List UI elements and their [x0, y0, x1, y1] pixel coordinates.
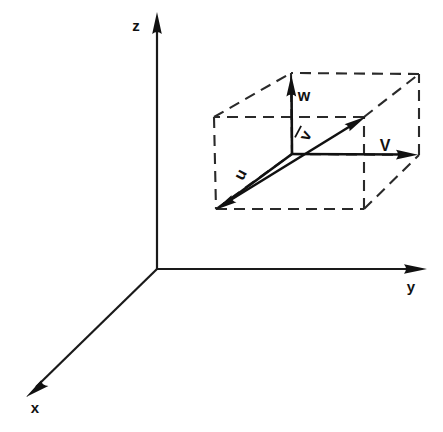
vector-decomposition-figure: z y x	[0, 0, 443, 432]
axes-group: z y x	[26, 12, 427, 416]
axis-x: x	[26, 269, 157, 416]
vectors-group: v u V w	[215, 75, 418, 210]
axis-z-label: z	[132, 17, 140, 34]
vector-u: u	[224, 154, 292, 204]
axis-y-label: y	[407, 278, 416, 295]
vector-w-line	[292, 88, 293, 154]
axis-x-line	[36, 269, 157, 387]
axis-y-arrowhead	[404, 264, 427, 274]
axis-z: z	[132, 12, 162, 269]
vector-v-line	[292, 154, 406, 155]
vector-u-line	[224, 154, 292, 204]
vector-w-label: w	[297, 87, 311, 104]
vector-resultant-line	[224, 122, 357, 204]
box-edge-depth-top-right	[364, 74, 419, 117]
axis-y: y	[157, 264, 427, 295]
box-edge-front-left	[214, 117, 216, 209]
vector-resultant-label-group: v	[295, 126, 316, 145]
box-edge-back-top	[291, 73, 419, 74]
vector-u-label: u	[230, 166, 250, 183]
vector-v-arrowhead	[396, 150, 418, 160]
vector-u-label-group: u	[230, 166, 250, 183]
axis-x-label: x	[31, 399, 40, 416]
box-edge-depth-top-left	[214, 73, 291, 117]
vector-resultant: v	[215, 117, 366, 211]
figure-canvas: z y x	[0, 0, 443, 432]
vector-w-arrowhead	[286, 75, 296, 97]
axis-z-arrowhead	[152, 12, 162, 34]
box-edge-depth-bottom-right	[364, 155, 419, 209]
axis-x-arrowhead	[26, 381, 48, 397]
vector-v-label: V	[380, 137, 391, 154]
